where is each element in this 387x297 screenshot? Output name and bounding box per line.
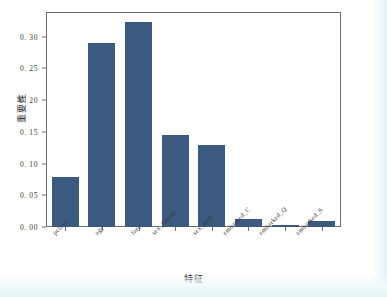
y-axis-tick-mark [42, 131, 46, 132]
bar-embarked_Q [272, 225, 299, 227]
y-axis-tick-label: 0. 00 [20, 223, 38, 232]
bar-slot [303, 13, 340, 227]
y-axis-tick-mark [42, 227, 46, 228]
y-axis-tick-mark [42, 195, 46, 196]
feature-importance-bar-chart: 0. 000. 050. 100. 150. 200. 250. 30 pcla… [0, 0, 387, 297]
bar-slot [194, 13, 231, 227]
bars-container [47, 13, 340, 227]
y-axis-title: 重要性 [15, 93, 28, 123]
bar-fare [125, 22, 152, 227]
bar-slot [157, 13, 194, 227]
bar-age [88, 43, 115, 227]
bar-slot [47, 13, 84, 227]
bar-slot [84, 13, 121, 227]
y-axis-tick-mark [42, 68, 46, 69]
bar-slot [120, 13, 157, 227]
y-axis-tick-label: 0. 30 [20, 32, 38, 41]
y-axis-tick-mark [42, 163, 46, 164]
y-axis-tick-label: 0. 10 [20, 159, 38, 168]
y-axis-tick-label: 0. 15 [20, 127, 38, 136]
bar-slot [230, 13, 267, 227]
y-axis-tick-mark [42, 100, 46, 101]
y-axis-tick-mark [42, 36, 46, 37]
y-axis-tick-label: 0. 25 [20, 64, 38, 73]
bar-slot [267, 13, 304, 227]
y-axis-tick-label: 0. 05 [20, 191, 38, 200]
x-axis-title: 特征 [0, 272, 387, 285]
